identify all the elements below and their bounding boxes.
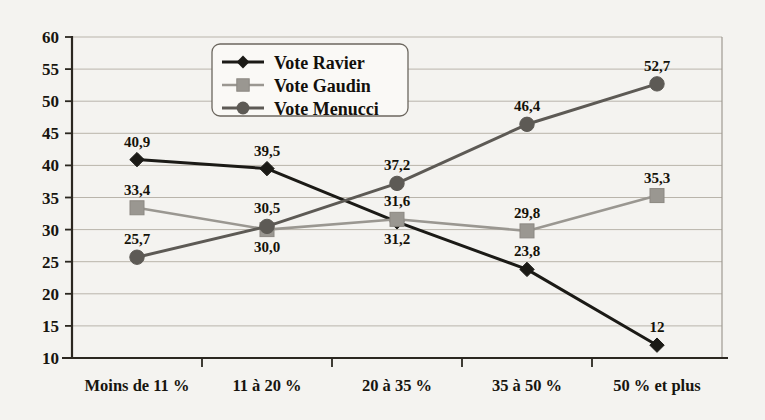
legend-item-label: Vote Ravier	[274, 53, 365, 73]
x-axis-category-label: 50 % et plus	[613, 376, 701, 395]
data-point-label: 39,5	[254, 143, 280, 159]
data-point-marker	[520, 224, 534, 238]
data-point-label: 46,4	[514, 98, 541, 114]
chart-legend[interactable]: Vote RavierVote GaudinVote Menucci	[212, 44, 408, 119]
y-axis-tick-label: 25	[42, 253, 59, 272]
data-point-marker	[390, 176, 404, 190]
data-point-label: 31,2	[384, 231, 410, 247]
data-point-marker	[130, 250, 144, 264]
data-point-label: 23,8	[514, 243, 540, 259]
x-axis-category-label: 11 à 20 %	[232, 376, 301, 395]
y-axis-tick-label: 10	[42, 349, 59, 368]
data-point-label: 29,8	[514, 205, 540, 221]
y-axis-tick-label: 55	[42, 60, 59, 79]
x-axis-category-label: 20 à 35 %	[362, 376, 432, 395]
y-axis-tick-label: 20	[42, 285, 59, 304]
data-point-label: 40,9	[124, 134, 150, 150]
y-axis-tick-label: 40	[42, 156, 59, 175]
data-point-marker	[520, 117, 534, 131]
data-point-label: 25,7	[124, 231, 151, 247]
y-axis-tick-label: 35	[42, 189, 59, 208]
line-chart: 1015202530354045505560 40,939,531,223,81…	[0, 0, 765, 420]
legend-item-label: Vote Gaudin	[274, 76, 371, 96]
data-point-label: 33,4	[124, 182, 151, 198]
data-point-label: 35,3	[644, 170, 670, 186]
data-point-marker	[130, 201, 144, 215]
data-point-label: 30,0	[254, 239, 280, 255]
y-axis-tick-label: 30	[42, 221, 59, 240]
data-point-label: 12	[650, 319, 665, 335]
chart-canvas: 1015202530354045505560 40,939,531,223,81…	[0, 0, 765, 420]
y-axis-tick-label: 50	[42, 92, 59, 111]
data-point-label: 37,2	[384, 157, 410, 173]
y-axis-tick-label: 15	[42, 317, 59, 336]
data-point-marker	[390, 212, 404, 226]
data-point-label: 31,6	[384, 193, 411, 209]
y-axis-tick-label: 45	[42, 124, 59, 143]
data-point-marker	[650, 77, 664, 91]
data-point-marker	[650, 189, 664, 203]
y-axis-tick-label: 60	[42, 28, 59, 47]
legend-marker	[237, 79, 249, 91]
data-point-label: 30,5	[254, 200, 280, 216]
data-point-marker	[260, 219, 274, 233]
data-point-label: 52,7	[644, 58, 671, 74]
x-axis-category-label: Moins de 11 %	[85, 376, 190, 395]
legend-marker	[237, 102, 250, 115]
x-axis-category-label: 35 à 50 %	[492, 376, 562, 395]
legend-item-label: Vote Menucci	[274, 99, 379, 119]
